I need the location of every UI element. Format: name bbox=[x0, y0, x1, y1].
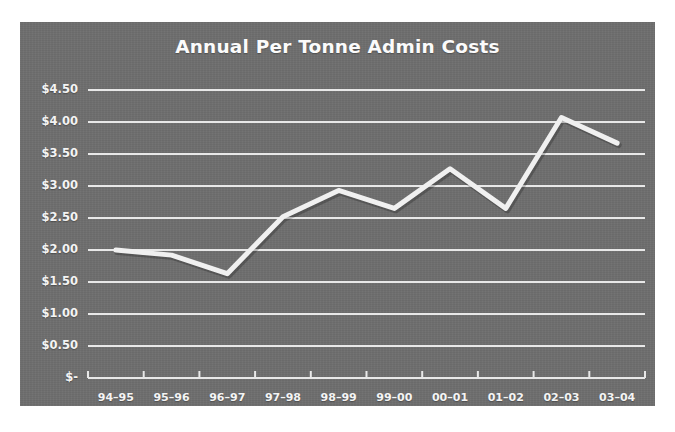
y-axis-tick-label: $4.00 bbox=[42, 114, 78, 128]
y-axis-tick-label: $1.50 bbox=[42, 274, 78, 288]
x-axis-tick-label: 98–99 bbox=[311, 391, 367, 404]
y-axis-tick-label: $1.00 bbox=[42, 306, 78, 320]
data-series-line bbox=[116, 118, 619, 276]
line-chart-svg bbox=[20, 22, 655, 406]
y-axis-tick-label: $2.50 bbox=[42, 210, 78, 224]
chart-title: Annual Per Tonne Admin Costs bbox=[20, 36, 655, 57]
axis-group bbox=[88, 371, 645, 378]
y-axis-tick-label: $2.00 bbox=[42, 242, 78, 256]
chart-figure: Annual Per Tonne Admin Costs $-$0.50$1.0… bbox=[0, 0, 675, 432]
x-axis-tick-label: 97–98 bbox=[255, 391, 311, 404]
x-axis-tick-label: 00–01 bbox=[422, 391, 478, 404]
chart-plot-area: Annual Per Tonne Admin Costs $-$0.50$1.0… bbox=[20, 22, 655, 406]
gridlines-group bbox=[88, 90, 645, 346]
x-axis-tick-label: 94–95 bbox=[88, 391, 144, 404]
y-axis-tick-label: $- bbox=[65, 370, 78, 384]
y-axis-tick-label: $4.50 bbox=[42, 82, 78, 96]
y-axis-tick-label: $3.50 bbox=[42, 146, 78, 160]
y-axis-tick-label: $0.50 bbox=[42, 338, 78, 352]
x-axis-tick-label: 96–97 bbox=[199, 391, 255, 404]
y-axis-tick-label: $3.00 bbox=[42, 178, 78, 192]
x-axis-tick-label: 01–02 bbox=[478, 391, 534, 404]
x-axis-tick-label: 03–04 bbox=[589, 391, 645, 404]
x-axis-tick-label: 02–03 bbox=[534, 391, 590, 404]
x-axis-tick-label: 95–96 bbox=[144, 391, 200, 404]
x-axis-tick-label: 99–00 bbox=[367, 391, 423, 404]
